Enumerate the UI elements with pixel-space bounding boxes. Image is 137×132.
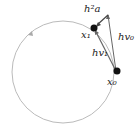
orbit-diagram bbox=[0, 0, 137, 132]
label-x1: x₁ bbox=[81, 30, 91, 40]
label-hv0: hv₀ bbox=[118, 32, 134, 42]
label-hv1: hv₁ bbox=[92, 48, 108, 58]
point-x1 bbox=[91, 25, 98, 32]
label-x0: x₀ bbox=[107, 77, 117, 87]
point-x0 bbox=[114, 68, 121, 75]
label-accel: h²a bbox=[84, 4, 100, 14]
